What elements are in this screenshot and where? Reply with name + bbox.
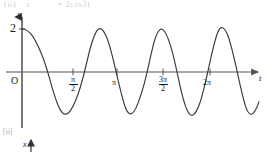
next-figure-y-axis-label: x bbox=[23, 140, 27, 149]
x-axis-label: t bbox=[259, 74, 262, 83]
next-part-tag: [ii] bbox=[3, 127, 13, 136]
x-tick-label-pi: π bbox=[112, 79, 116, 87]
x-tick-label-3pi-over-2-denominator: 2 bbox=[156, 85, 170, 93]
origin-label: O bbox=[11, 76, 18, 86]
cosine-curve bbox=[22, 28, 259, 116]
x-tick-label-3pi-over-2-numerator: 3π bbox=[156, 76, 170, 84]
figure-container: (ii) x = 2cos3t x t 2 O π bbox=[0, 0, 269, 152]
x-tick-label-pi-over-2-numerator: π bbox=[67, 76, 79, 84]
x-tick-label-pi-over-2: π 2 bbox=[67, 76, 79, 93]
x-tick-label-2pi: 2π bbox=[203, 79, 211, 87]
x-tick-label-pi-over-2-denominator: 2 bbox=[67, 85, 79, 93]
graph-canvas bbox=[0, 0, 269, 152]
x-tick-label-3pi-over-2: 3π 2 bbox=[156, 76, 170, 93]
y-axis-label: x bbox=[17, 10, 21, 19]
y-tick-label-2: 2 bbox=[10, 22, 16, 34]
